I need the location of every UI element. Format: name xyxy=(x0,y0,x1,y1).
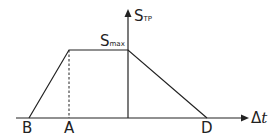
y-axis-label-sub: TP xyxy=(144,15,153,23)
peak-label-main: S xyxy=(100,32,110,50)
x-axis-arrow-icon xyxy=(241,115,249,122)
y-axis-label-main: S xyxy=(134,7,144,25)
peak-label-sub: max xyxy=(110,40,125,48)
trapezoid-line xyxy=(29,50,207,118)
x-axis-label-var: t xyxy=(261,109,267,127)
peak-label: Smax xyxy=(100,34,125,49)
point-b-label: B xyxy=(22,121,32,136)
point-a-label: A xyxy=(64,121,74,136)
point-d-label: D xyxy=(201,121,213,136)
x-axis-label-delta: Δ xyxy=(251,109,261,127)
trapezoid-diagram: STP Smax B A D Δt xyxy=(0,0,275,137)
y-axis-label: STP xyxy=(134,9,152,24)
y-axis-arrow-icon xyxy=(125,9,132,17)
x-axis-label: Δt xyxy=(251,111,267,126)
